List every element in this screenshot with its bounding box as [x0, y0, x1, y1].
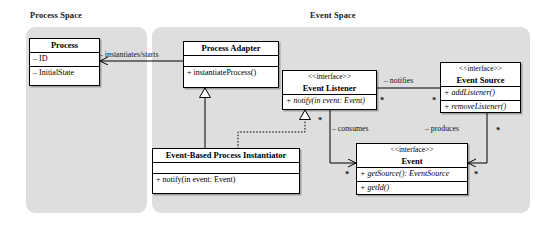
class-attribute: – ID	[30, 53, 99, 67]
class-operation: + getId()	[357, 182, 467, 195]
stereotype-label: <<interface>>	[441, 63, 520, 74]
class-box-event-source[interactable]: <<interface>> Event Source + addListener…	[440, 62, 521, 113]
multiplicity-notifies-target: *	[432, 96, 436, 104]
multiplicity-produces-target: *	[474, 170, 478, 178]
multiplicity-notifies-source: *	[380, 96, 384, 104]
edge-label-notifies: – notifies	[384, 76, 413, 86]
class-name-event-source: Event Source	[441, 74, 520, 87]
class-box-event-listener[interactable]: <<interface>> Event Listener + notify(in…	[282, 70, 377, 110]
stereotype-label: <<interface>>	[283, 71, 376, 82]
class-box-event-based-process-instantiator[interactable]: Event-Based Process Instantiator + notif…	[152, 148, 300, 194]
multiplicity-produces-source: *	[496, 126, 500, 134]
class-attribute: – InitialState	[30, 67, 99, 80]
edge-label-consumes: – consumes	[332, 124, 369, 134]
multiplicity-consumes: *	[345, 170, 349, 178]
panel-title-event-space: Event Space	[310, 10, 356, 20]
class-operation: + addListener()	[441, 87, 520, 101]
class-operation: + instantiateProcess()	[184, 67, 278, 80]
class-operation: + getSource(): EventSource	[357, 168, 467, 182]
panel-title-process-space: Process Space	[30, 10, 82, 20]
class-operation: + notify(in event: Event)	[153, 174, 299, 187]
class-operation: + removeListener()	[441, 101, 520, 114]
class-name-event-listener: Event Listener	[283, 82, 376, 95]
class-attributes-compartment	[184, 56, 278, 67]
class-attributes-compartment	[153, 163, 299, 174]
class-box-process[interactable]: Process – ID – InitialState	[29, 38, 100, 86]
class-name-process-adapter: Process Adapter	[184, 42, 278, 56]
edge-label-instantiates: – instantiates/starts	[99, 50, 159, 60]
uml-diagram: Process Space Event Space Process – ID –…	[0, 0, 535, 230]
class-name-instantiator: Event-Based Process Instantiator	[153, 149, 299, 163]
class-box-process-adapter[interactable]: Process Adapter + instantiateProcess()	[183, 41, 279, 88]
class-name-event: Event	[357, 155, 467, 168]
class-box-event[interactable]: <<interface>> Event + getSource(): Event…	[356, 143, 468, 195]
stereotype-label: <<interface>>	[357, 144, 467, 155]
class-operation: + notify(in event: Event)	[283, 95, 376, 108]
class-name-process: Process	[30, 39, 99, 53]
multiplicity-realization: *	[318, 116, 322, 124]
edge-label-produces: – produces	[425, 124, 459, 134]
